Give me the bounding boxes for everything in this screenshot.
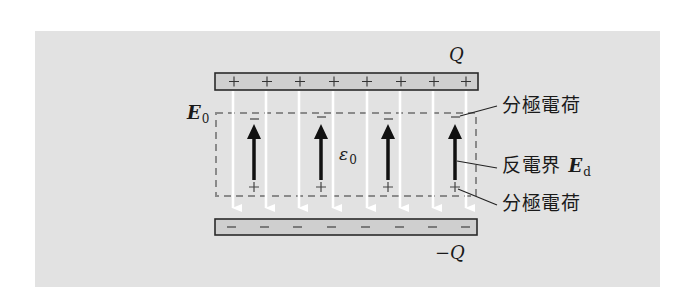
external-field-label: E0 <box>187 104 209 122</box>
bottom-plate <box>215 219 477 235</box>
polarization-charges-positive <box>249 182 460 192</box>
permittivity-subscript: 0 <box>349 153 357 167</box>
top-plate <box>215 73 478 90</box>
external-field-symbol: E <box>187 102 201 123</box>
depolarizing-field-text: 反電界 <box>502 154 561 176</box>
top-charge-label: Q <box>449 46 464 64</box>
permittivity-symbol: ε <box>339 144 348 164</box>
polarization-charge-top-label: 分極電荷 <box>502 96 580 115</box>
polarization-charge-bottom-label: 分極電荷 <box>502 194 580 213</box>
permittivity-label: ε0 <box>339 146 357 163</box>
external-field-subscript: 0 <box>202 112 210 126</box>
polarization-charges-negative <box>250 117 460 119</box>
bottom-charge-label: −Q <box>435 244 465 262</box>
depolarizing-field-subscript: d <box>583 165 591 179</box>
depolarizing-field-label: 反電界 Ed <box>502 156 591 175</box>
depolarizing-field-symbol: E <box>569 155 583 176</box>
